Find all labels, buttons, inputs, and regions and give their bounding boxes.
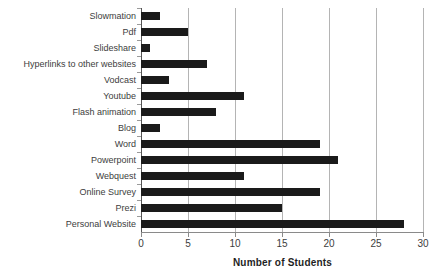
category-label: Personal Website — [0, 219, 136, 229]
bar — [141, 188, 320, 196]
bar — [141, 140, 320, 148]
bar — [141, 28, 188, 36]
category-label: Prezi — [0, 203, 136, 213]
bar — [141, 108, 216, 116]
plot-area — [141, 8, 423, 232]
x-tick-5 — [188, 232, 189, 237]
gridline-30 — [423, 8, 424, 232]
y-tick — [137, 104, 141, 105]
category-label: Powerpoint — [0, 155, 136, 165]
category-label: Flash animation — [0, 107, 136, 117]
category-label: Webquest — [0, 171, 136, 181]
bar — [141, 204, 282, 212]
y-tick — [137, 8, 141, 9]
x-tick-20 — [329, 232, 330, 237]
y-tick — [137, 24, 141, 25]
x-tick-0 — [141, 232, 142, 237]
x-tick-label-15: 15 — [267, 238, 297, 249]
category-label: Slideshare — [0, 43, 136, 53]
category-label: Vodcast — [0, 75, 136, 85]
bar — [141, 44, 150, 52]
y-tick — [137, 72, 141, 73]
y-tick — [137, 136, 141, 137]
x-tick-10 — [235, 232, 236, 237]
y-tick — [137, 184, 141, 185]
bar-chart: SlowmationPdfSlideshareHyperlinks to oth… — [0, 0, 435, 279]
category-label: Hyperlinks to other websites — [0, 59, 136, 69]
y-tick — [137, 168, 141, 169]
y-tick — [137, 200, 141, 201]
category-label: Youtube — [0, 91, 136, 101]
y-tick — [137, 88, 141, 89]
category-label: Word — [0, 139, 136, 149]
x-tick-label-25: 25 — [361, 238, 391, 249]
category-label: Online Survey — [0, 187, 136, 197]
x-tick-label-20: 20 — [314, 238, 344, 249]
bar — [141, 124, 160, 132]
category-label: Pdf — [0, 27, 136, 37]
y-tick — [137, 56, 141, 57]
y-tick — [137, 216, 141, 217]
bar — [141, 92, 244, 100]
x-tick-label-10: 10 — [220, 238, 250, 249]
bar-series — [141, 8, 423, 232]
category-label: Slowmation — [0, 11, 136, 21]
x-tick-label-30: 30 — [408, 238, 435, 249]
y-tick — [137, 120, 141, 121]
x-tick-label-0: 0 — [126, 238, 156, 249]
bar — [141, 76, 169, 84]
category-label: Blog — [0, 123, 136, 133]
bar — [141, 156, 338, 164]
x-axis-title: Number of Students — [141, 257, 424, 268]
bar — [141, 172, 244, 180]
x-tick-15 — [282, 232, 283, 237]
x-tick-30 — [423, 232, 424, 237]
bar — [141, 12, 160, 20]
x-tick-25 — [376, 232, 377, 237]
x-tick-label-5: 5 — [173, 238, 203, 249]
bar — [141, 60, 207, 68]
y-tick — [137, 40, 141, 41]
bar — [141, 220, 404, 228]
category-axis-labels: SlowmationPdfSlideshareHyperlinks to oth… — [0, 8, 136, 232]
y-tick — [137, 152, 141, 153]
